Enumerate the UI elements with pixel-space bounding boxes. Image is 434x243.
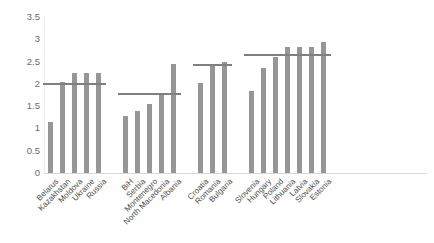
y-axis-tick-labels: 00.511.522.533.5 [0, 17, 40, 173]
bar [261, 68, 266, 173]
bar [171, 64, 176, 173]
bar [249, 91, 254, 173]
bar [198, 83, 203, 173]
bar [285, 47, 290, 173]
bar [297, 47, 302, 173]
group-average-line [244, 54, 331, 56]
y-tick-label: 2.5 [4, 57, 40, 67]
group-average-line [43, 83, 106, 85]
y-tick-label: 1 [4, 124, 40, 134]
y-tick-label: 1.5 [4, 101, 40, 111]
group-average-line [193, 64, 232, 66]
y-tick-label: 2 [4, 79, 40, 89]
bar-chart: 00.511.522.533.5 BelarusKazakhstanMoldov… [0, 0, 434, 243]
bar [135, 111, 140, 173]
bar [60, 82, 65, 173]
y-tick-label: 3 [4, 35, 40, 45]
y-tick-label: 3.5 [4, 12, 40, 22]
bar [210, 64, 215, 173]
bar [321, 42, 326, 173]
bar [273, 57, 278, 173]
group-average-line [118, 93, 181, 95]
bar [84, 73, 89, 173]
bar [159, 94, 164, 173]
y-tick-label: 0.5 [4, 146, 40, 156]
bar [222, 62, 227, 173]
bar [123, 116, 128, 173]
bar [96, 73, 101, 173]
bar [72, 73, 77, 173]
x-axis-category-labels: BelarusKazakhstanMoldovaUkraineRussiaBiH… [0, 173, 434, 243]
bar [309, 47, 314, 173]
plot-area [44, 17, 424, 173]
bar [48, 122, 53, 173]
bar [147, 104, 152, 173]
